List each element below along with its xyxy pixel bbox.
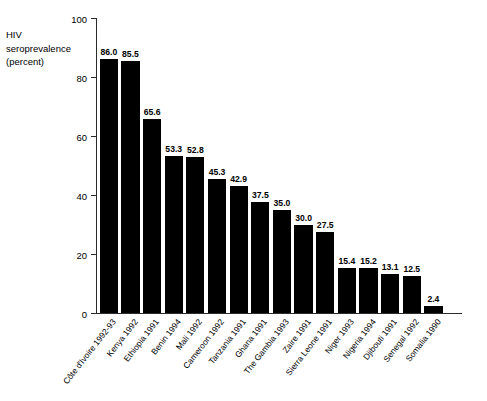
bar-16: 2.4: [423, 18, 445, 313]
bar-value-label: 30.0: [295, 213, 312, 223]
bar-12: 15.4: [336, 18, 358, 313]
y-tick-label: 40: [76, 190, 87, 201]
bar-5: 52.8: [185, 18, 207, 313]
y-tick-20: 20: [91, 254, 96, 255]
bar-value-label: 42.9: [230, 174, 247, 184]
plot-area: 020406080100 86.085.565.653.352.845.342.…: [97, 18, 461, 313]
bar-7: 42.9: [228, 18, 250, 313]
bar-10: 30.0: [293, 18, 315, 313]
bar-4: 53.3: [163, 18, 185, 313]
bar-value-label: 53.3: [165, 144, 182, 154]
y-tick-80: 80: [91, 77, 96, 78]
bar-8: 37.5: [249, 18, 271, 313]
y-tick-label: 100: [71, 13, 87, 24]
bar-9: 35.0: [271, 18, 293, 313]
bar-value-label: 12.5: [403, 264, 420, 274]
y-tick-40: 40: [91, 195, 96, 196]
y-tick-label: 80: [76, 72, 87, 83]
bar-value-label: 86.0: [100, 47, 117, 57]
bar-6: 45.3: [206, 18, 228, 313]
bar-value-label: 13.1: [382, 262, 399, 272]
bar-value-label: 37.5: [252, 190, 269, 200]
bar-1: 86.0: [98, 18, 120, 313]
x-axis-spine: [96, 313, 462, 314]
bar-value-label: 45.3: [209, 167, 226, 177]
bar-value-label: 35.0: [274, 198, 291, 208]
bar-rect: [100, 59, 118, 313]
hiv-seroprevalence-bar-chart: HIV seroprevalence (percent) 02040608010…: [0, 0, 487, 401]
y-tick-label: 60: [76, 131, 87, 142]
y-tick-label: 20: [76, 249, 87, 260]
bar-value-label: 85.5: [122, 49, 139, 59]
y-axis-title: HIV seroprevalence (percent): [6, 28, 90, 69]
y-tick-100: 100: [91, 18, 96, 19]
bar-14: 13.1: [379, 18, 401, 313]
bar-15: 12.5: [401, 18, 423, 313]
y-tick-label: 0: [82, 308, 87, 319]
y-tick-0: 0: [91, 313, 96, 314]
bar-rect: [121, 61, 139, 313]
bar-2: 85.5: [120, 18, 142, 313]
bar-value-label: 52.8: [187, 145, 204, 155]
y-tick-60: 60: [91, 136, 96, 137]
bar-value-label: 65.6: [144, 107, 161, 117]
bar-value-label: 27.5: [317, 220, 334, 230]
bar-value-label: 15.4: [338, 256, 355, 266]
